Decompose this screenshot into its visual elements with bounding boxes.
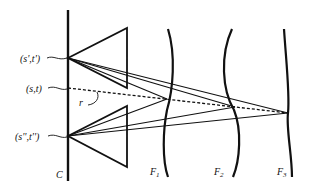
- label-f3: F3: [276, 166, 287, 179]
- focal-surface-f2: [224, 29, 239, 177]
- label-s-prime: (s',t'): [20, 53, 41, 65]
- camera-plane-label: C: [56, 169, 63, 180]
- rays-upper: [68, 58, 288, 113]
- label-f1: F1: [149, 166, 160, 179]
- leader-sp: [47, 57, 67, 59]
- focal-surface-f1: [164, 29, 173, 177]
- leader-s: [48, 87, 67, 89]
- label-f2: F2: [213, 166, 224, 179]
- label-s-double-prime: (s'',t''): [15, 131, 40, 143]
- lower-frustum: [68, 106, 127, 167]
- focal-surface-f3: [284, 29, 292, 177]
- light-field-diagram: C (s',t') (s,t) (s'',t'') r F1 F2 F3: [0, 0, 312, 192]
- central-ray-r: [68, 88, 288, 113]
- leader-spp: [48, 135, 67, 137]
- label-r: r: [79, 97, 83, 108]
- label-s: (s,t): [26, 83, 43, 95]
- leader-r: [88, 92, 98, 105]
